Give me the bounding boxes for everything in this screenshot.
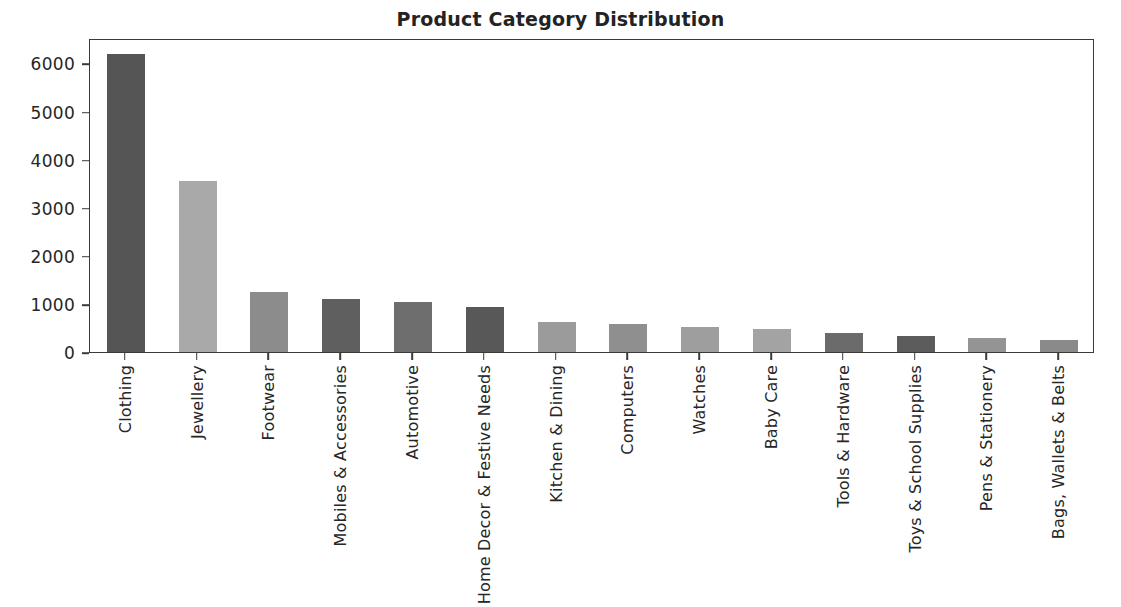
bar	[466, 307, 504, 352]
y-tick-label: 2000	[31, 247, 75, 267]
x-tick-mark	[411, 353, 413, 360]
y-tick-label: 6000	[31, 54, 75, 74]
plot-area	[89, 39, 1094, 353]
x-tick-mark	[339, 353, 341, 360]
x-tick-mark	[196, 353, 198, 360]
y-tick-label: 4000	[31, 151, 75, 171]
x-tick-mark	[124, 353, 126, 360]
bar	[322, 299, 360, 352]
bar	[753, 329, 791, 352]
y-tick-mark	[82, 160, 89, 162]
bar	[394, 302, 432, 352]
bar	[1040, 340, 1078, 353]
x-tick-label: Mobiles & Accessories	[331, 365, 350, 546]
bar	[179, 181, 217, 352]
y-tick-mark	[82, 208, 89, 210]
x-tick-label: Jewellery	[187, 365, 206, 439]
x-tick-mark	[842, 353, 844, 360]
bar	[609, 324, 647, 352]
x-tick-label: Computers	[618, 365, 637, 455]
bar	[897, 336, 935, 352]
x-tick-mark	[770, 353, 772, 360]
x-tick-label: Clothing	[115, 365, 134, 433]
x-tick-label: Pens & Stationery	[977, 365, 996, 511]
x-tick-label: Tools & Hardware	[833, 365, 852, 508]
bar	[825, 333, 863, 352]
y-tick-mark	[82, 112, 89, 114]
x-tick-mark	[1057, 353, 1059, 360]
x-tick-mark	[483, 353, 485, 360]
bar	[250, 292, 288, 352]
x-tick-label: Toys & School Supplies	[905, 365, 924, 553]
y-tick-label: 1000	[31, 295, 75, 315]
x-tick-mark	[914, 353, 916, 360]
chart-figure: Product Category Distribution 0100020003…	[0, 0, 1121, 607]
bars-layer	[90, 40, 1093, 352]
x-tick-mark	[627, 353, 629, 360]
y-tick-mark	[82, 64, 89, 66]
x-tick-label: Baby Care	[761, 365, 780, 449]
y-tick-label: 3000	[31, 199, 75, 219]
x-tick-label: Watches	[690, 365, 709, 434]
y-tick-mark	[82, 304, 89, 306]
x-tick-label: Bags, Wallets & Belts	[1049, 365, 1068, 539]
chart-title: Product Category Distribution	[0, 8, 1121, 30]
y-axis: 0100020003000400050006000	[0, 39, 89, 353]
x-tick-label: Kitchen & Dining	[546, 365, 565, 503]
bar	[681, 327, 719, 352]
x-tick-label: Automotive	[403, 365, 422, 460]
x-axis: ClothingJewelleryFootwearMobiles & Acces…	[89, 353, 1094, 603]
x-tick-mark	[555, 353, 557, 360]
y-tick-label: 0	[64, 343, 75, 363]
x-tick-label: Footwear	[259, 365, 278, 440]
x-tick-mark	[986, 353, 988, 360]
bar	[968, 338, 1006, 352]
bar	[538, 322, 576, 352]
x-tick-label: Home Decor & Festive Needs	[474, 365, 493, 604]
x-tick-mark	[698, 353, 700, 360]
y-tick-label: 5000	[31, 103, 75, 123]
x-tick-mark	[268, 353, 270, 360]
y-tick-mark	[82, 256, 89, 258]
y-tick-mark	[82, 352, 89, 354]
bar	[107, 54, 145, 352]
